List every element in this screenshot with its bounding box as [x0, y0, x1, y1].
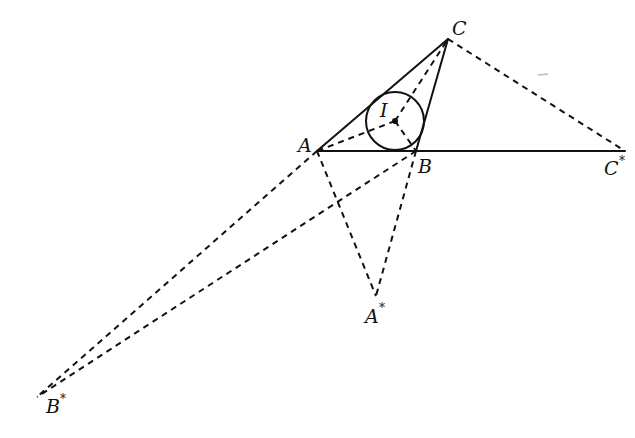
label-c-star-sup: * — [619, 154, 625, 168]
label-c-star: C — [604, 157, 619, 179]
segment-b-bstar — [37, 151, 416, 397]
label-a-star: A — [363, 305, 379, 327]
segment-a-bstar — [37, 151, 317, 397]
label-i: I — [379, 99, 388, 121]
label-b-star-sup: * — [60, 392, 66, 406]
label-b: B — [417, 155, 432, 177]
scan-artifact — [538, 74, 548, 75]
label-a: A — [296, 134, 312, 156]
label-b-star: B — [45, 395, 60, 417]
bisector-ib — [395, 121, 416, 151]
geometry-diagram: A B C I C * A * B * — [0, 0, 635, 438]
segment-b-astar — [376, 151, 416, 296]
label-c: C — [452, 17, 467, 39]
segment-c-cstar — [448, 39, 625, 151]
segment-a-astar — [317, 151, 376, 296]
label-a-star-sup: * — [379, 301, 385, 315]
